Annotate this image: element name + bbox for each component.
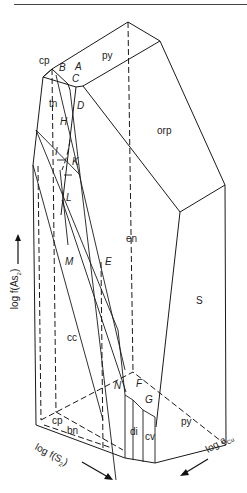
- point-label-L: L: [66, 193, 72, 203]
- phase-label-py-bottom: py: [181, 417, 192, 427]
- arrow-up-icon: [14, 234, 22, 264]
- point-label-B: B: [59, 63, 66, 73]
- phase-label-py-top: py: [102, 51, 113, 61]
- point-label-A: A: [75, 62, 82, 72]
- point-label-H: H: [60, 117, 67, 127]
- point-label-M: M: [65, 257, 73, 267]
- point-label-C: C: [72, 74, 79, 84]
- point-label-E: E: [105, 257, 112, 267]
- phase-label-cc: cc: [67, 333, 77, 343]
- phase-diagram-block: [0, 0, 247, 493]
- arrow-down-right-icon: [80, 460, 114, 482]
- point-label-N: N: [114, 381, 121, 391]
- point-label-I: I: [55, 147, 58, 157]
- phase-label-bn: bn: [67, 426, 78, 436]
- phase-label-en: en: [126, 234, 137, 244]
- phase-label-cp-bottom: cp: [52, 416, 63, 426]
- point-label-K: K: [72, 157, 79, 167]
- phase-label-di: di: [130, 427, 138, 437]
- phase-label-S: S: [196, 296, 203, 306]
- phase-label-tn: tn: [49, 99, 57, 109]
- axis-text: log f(As: [9, 275, 20, 309]
- phase-label-cp-top: cp: [39, 56, 50, 66]
- axis-subscript: 2: [16, 272, 22, 275]
- point-label-F: F: [136, 379, 142, 389]
- axis-text-tail: ): [9, 269, 20, 272]
- point-label-D: D: [77, 101, 84, 111]
- arrow-down-left-icon: [180, 457, 210, 479]
- axis-label-log-f-As2: log f(As2): [10, 259, 22, 319]
- point-label-G: G: [145, 395, 153, 405]
- phase-label-orp: orp: [157, 126, 171, 136]
- phase-label-cv: cv: [145, 432, 155, 442]
